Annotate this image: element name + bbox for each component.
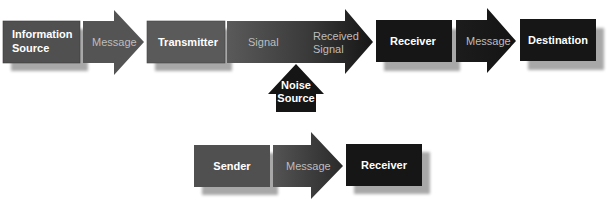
information-source-box: Information Source <box>3 21 88 71</box>
destination-label: Destination <box>528 34 588 46</box>
message-label-bottom: Message <box>286 160 331 172</box>
transmitter-label: Transmitter <box>158 36 219 48</box>
message-arrow-2: Message <box>456 8 516 73</box>
message-arrow-bottom: Message <box>273 132 343 199</box>
message-label-2: Message <box>466 35 511 47</box>
information-source-label-line1: Information <box>12 28 73 40</box>
communication-model-diagram: Information Source Message Transmitter S… <box>0 0 609 211</box>
received-signal-label-line1: Received <box>313 30 359 42</box>
received-signal-label-line2: Signal <box>313 43 344 55</box>
information-source-label-line2: Source <box>12 42 49 54</box>
signal-label: Signal <box>248 36 279 48</box>
transmitter-box: Transmitter <box>147 21 232 71</box>
noise-source-arrow: Noise Source <box>268 64 324 112</box>
sender-box: Sender <box>194 145 278 195</box>
noise-source-label-line2: Source <box>277 92 314 104</box>
signal-arrow: Signal Received Signal <box>227 9 373 74</box>
message-arrow-1: Message <box>83 10 144 75</box>
noise-source-label-line1: Noise <box>281 79 311 91</box>
receiver-box-bottom: Receiver <box>346 144 430 194</box>
destination-box: Destination <box>520 19 604 70</box>
sender-label: Sender <box>213 160 251 172</box>
receiver-label-top: Receiver <box>390 35 437 47</box>
receiver-label-bottom: Receiver <box>361 159 408 171</box>
message-label-1: Message <box>92 36 137 48</box>
receiver-box-top: Receiver <box>376 20 460 71</box>
